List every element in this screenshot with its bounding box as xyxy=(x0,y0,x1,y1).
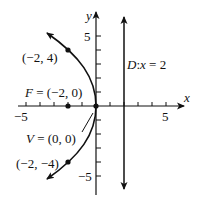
focus-label: F = (−2, 0) xyxy=(24,85,82,100)
point-lower-label: (−2, −4) xyxy=(16,156,59,171)
point-lower xyxy=(65,159,70,164)
parabola-graph: −5 5 5 −5 x y D:x = 2 (−2, 4) (−2, −4) F… xyxy=(0,0,202,198)
y-axis-label: y xyxy=(84,8,92,23)
point-upper xyxy=(65,47,70,52)
x-tick-label-5: 5 xyxy=(162,109,169,124)
vertex-label: V = (0, 0) xyxy=(26,131,76,146)
x-axis-label: x xyxy=(183,90,190,105)
y-tick-label-neg5: −5 xyxy=(78,169,92,184)
vertex-point xyxy=(93,103,98,108)
x-tick-label-neg5: −5 xyxy=(14,109,28,124)
point-upper-label: (−2, 4) xyxy=(22,50,58,65)
directrix-label: D:x = 2 xyxy=(126,57,166,72)
focus-point xyxy=(65,103,70,108)
parabola-figure: −5 5 5 −5 x y D:x = 2 (−2, 4) (−2, −4) F… xyxy=(0,0,202,198)
y-tick-label-5: 5 xyxy=(84,29,91,44)
